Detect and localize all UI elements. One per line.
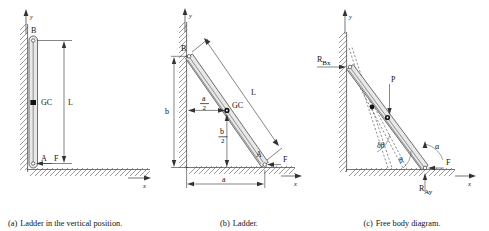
label-point-b-b: B: [181, 44, 186, 53]
centroid-marker-b: [224, 108, 229, 113]
axis-x-label-c: x: [467, 180, 471, 187]
label-b-half-num: b: [220, 127, 224, 136]
force-f-b: F: [267, 155, 288, 167]
joint-a-c: [423, 166, 427, 170]
figure-panel-a: y: [0, 0, 163, 231]
ground-a: [27, 168, 158, 178]
caption-a-text: Ladder in the vertical position.: [20, 219, 122, 228]
dimension-b-vertical: b: [165, 56, 188, 167]
label-point-b-a: B: [31, 26, 36, 35]
axis-x-c: x: [455, 174, 476, 187]
label-force-f-b: F: [283, 155, 288, 164]
joint-b-c: [348, 65, 352, 69]
ground-b: [186, 166, 302, 176]
label-a-half-num: a: [202, 94, 206, 103]
caption-c: (c)Free body diagram.: [315, 218, 489, 230]
label-b-half-den: 2: [221, 137, 225, 145]
label-b-span: b: [165, 107, 169, 116]
label-length-b: L: [251, 88, 256, 97]
label-a-half-den: 2: [203, 104, 207, 112]
axis-y-c: y: [343, 9, 352, 34]
force-f-a: F: [36, 154, 59, 166]
wall-a: [18, 22, 28, 182]
label-angle-delta-theta: δθ: [377, 141, 385, 150]
axis-y-b: y: [183, 8, 192, 32]
force-friction-f: F: [428, 158, 451, 170]
figure-c-drawing: y: [315, 0, 489, 196]
figure-a-drawing: y: [0, 0, 163, 196]
centroid-marker-a: [30, 100, 36, 105]
label-centroid-b: GC: [232, 101, 243, 110]
dimension-a-horizontal: a: [187, 170, 265, 188]
label-force-f-a: F: [54, 154, 59, 163]
label-reaction-bx: RBx: [317, 55, 331, 67]
label-centroid-a: GC: [41, 98, 52, 107]
joint-a-b: [263, 163, 267, 167]
axis-x-a: x: [128, 176, 151, 189]
wall-c: [337, 30, 347, 180]
angle-delta-theta: δθ: [377, 134, 390, 152]
figure-b-drawing: y: [163, 0, 315, 196]
force-reaction-ay: RAy: [419, 173, 433, 196]
label-reaction-ay: RAy: [419, 184, 433, 196]
figure-panel-c: y: [315, 0, 489, 231]
label-length-a: L: [68, 98, 73, 107]
caption-a-tag: (a): [8, 219, 17, 228]
caption-a: (a)Ladder in the vertical position.: [8, 218, 155, 230]
figure-sheet: y: [0, 0, 489, 231]
axis-x-label-a: x: [142, 182, 146, 189]
label-friction-f: F: [446, 158, 451, 167]
caption-b-text: Ladder.: [233, 219, 258, 228]
axis-y-label-a: y: [29, 13, 33, 20]
caption-b-tag: (b): [220, 219, 230, 228]
angle-alpha: α: [423, 141, 443, 160]
axis-y-label-c: y: [348, 13, 352, 20]
figure-panel-b: y: [163, 0, 315, 231]
joint-a-a: [32, 162, 35, 165]
label-load-p: P: [391, 75, 396, 84]
label-angle-theta: θ: [399, 156, 403, 165]
label-angle-alpha: α: [435, 142, 440, 151]
caption-b: (b)Ladder.: [163, 218, 315, 230]
axis-x-b: x: [281, 174, 302, 187]
label-a-span: a: [222, 175, 226, 184]
joint-b-a: [32, 39, 35, 42]
ground-c: [346, 168, 457, 178]
axis-x-label-b: x: [293, 180, 297, 187]
caption-c-tag: (c): [364, 219, 373, 228]
force-load-p: P: [387, 75, 396, 115]
caption-c-text: Free body diagram.: [376, 219, 441, 228]
force-reaction-bx: RBx: [317, 55, 346, 69]
label-point-a-b: A: [256, 150, 262, 159]
axis-y-label-b: y: [188, 12, 192, 19]
dimension-b-half: b 2: [219, 114, 230, 167]
